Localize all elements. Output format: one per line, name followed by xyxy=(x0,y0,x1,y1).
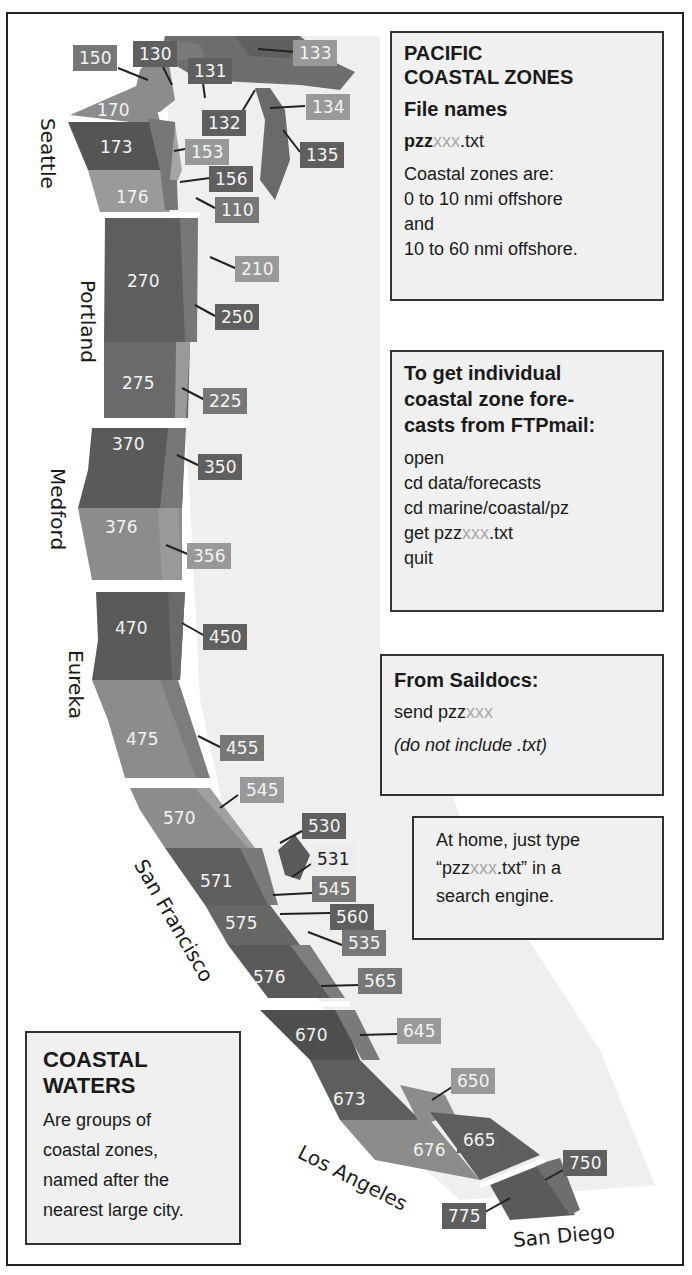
legend-line: nearest large city. xyxy=(43,1195,227,1225)
zone-tag: 665 xyxy=(457,1127,501,1153)
zone-tag: 150 xyxy=(73,45,117,71)
ftpmail-heading-1: To get individual xyxy=(404,360,650,386)
at-home-box: At home, just type “pzzxxx.txt” in a sea… xyxy=(412,816,664,940)
zone-tag: 535 xyxy=(342,930,386,956)
title-info-box: PACIFIC COASTAL ZONES File names pzzxxx.… xyxy=(390,31,664,301)
coastal-waters-box: COASTAL WATERS Are groups of coastal zon… xyxy=(25,1031,241,1245)
zone-tag: 450 xyxy=(203,624,247,650)
ftp-command-get: get pzzxxx.txt xyxy=(404,521,650,546)
zone-tag: 153 xyxy=(185,139,229,165)
zone-tag: 131 xyxy=(188,58,232,84)
zone-label: 170 xyxy=(97,102,129,119)
zone-tag: 530 xyxy=(302,813,346,839)
zone-label: 176 xyxy=(116,189,148,206)
home-line-1: At home, just type xyxy=(436,826,650,854)
zone-tag: 135 xyxy=(300,142,344,168)
info-line: 0 to 10 nmi offshore xyxy=(404,187,650,212)
zone-tag: 356 xyxy=(187,543,231,569)
file-names-heading: File names xyxy=(404,97,650,121)
zone-tag: 210 xyxy=(235,256,279,282)
title-line-1: PACIFIC xyxy=(404,41,650,65)
saildocs-box: From Saildocs: send pzzxxx (do not inclu… xyxy=(380,654,664,796)
city-seattle: Seattle xyxy=(36,118,60,189)
zone-tag: 250 xyxy=(215,304,259,330)
zone-label: 673 xyxy=(333,1091,365,1108)
zone-label: 571 xyxy=(200,873,232,890)
zone-label: 370 xyxy=(112,436,144,453)
city-eureka: Eureka xyxy=(64,650,88,719)
zone-label: 670 xyxy=(295,1027,327,1044)
legend-title-2: WATERS xyxy=(43,1073,227,1099)
info-line: 10 to 60 nmi offshore. xyxy=(404,237,650,262)
zone-label: 173 xyxy=(100,139,132,156)
zone-label: 570 xyxy=(163,810,195,827)
zone-label: 270 xyxy=(127,273,159,290)
saildocs-command: send pzzxxx xyxy=(394,700,650,725)
saildocs-note: (do not include .txt) xyxy=(394,733,650,758)
zone-label: 575 xyxy=(225,915,257,932)
zone-tag: 775 xyxy=(442,1203,486,1229)
legend-line: named after the xyxy=(43,1165,227,1195)
zone-tag: 110 xyxy=(215,197,259,223)
ftpmail-box: To get individual coastal zone fore- cas… xyxy=(390,350,664,612)
zone-tag: 132 xyxy=(202,110,246,136)
title-line-2: COASTAL ZONES xyxy=(404,65,650,89)
info-line: and xyxy=(404,212,650,237)
zone-label: 676 xyxy=(413,1142,445,1159)
zone-tag: 156 xyxy=(209,166,253,192)
zone-tag: 130 xyxy=(133,41,177,67)
zone-tag: 455 xyxy=(220,735,264,761)
zone-tag: 750 xyxy=(563,1150,607,1176)
saildocs-heading: From Saildocs: xyxy=(394,668,650,692)
city-medford: Medford xyxy=(46,468,70,550)
zone-tag: 645 xyxy=(397,1018,441,1044)
zone-tag: 545 xyxy=(312,876,356,902)
filename-pattern: pzzxxx.txt xyxy=(404,129,650,154)
zone-tag: 650 xyxy=(451,1068,495,1094)
ftp-command: cd marine/coastal/pz xyxy=(404,496,650,521)
city-portland: Portland xyxy=(76,280,100,363)
ftp-command: cd data/forecasts xyxy=(404,471,650,496)
ftpmail-heading-3: casts from FTPmail: xyxy=(404,412,650,438)
home-line-3: search engine. xyxy=(436,882,650,910)
zone-tag: 545 xyxy=(240,777,284,803)
zone-tag: 225 xyxy=(203,388,247,414)
zone-label: 576 xyxy=(253,969,285,986)
zone-tag: 560 xyxy=(330,904,374,930)
legend-line: Are groups of xyxy=(43,1105,227,1135)
zone-tag: 350 xyxy=(198,454,242,480)
zone-label: 475 xyxy=(126,731,158,748)
info-line: Coastal zones are: xyxy=(404,162,650,187)
ftp-command: open xyxy=(404,446,650,471)
zone-tag: 531 xyxy=(311,846,355,872)
zone-label: 275 xyxy=(122,375,154,392)
legend-title-1: COASTAL xyxy=(43,1047,227,1073)
ftpmail-heading-2: coastal zone fore- xyxy=(404,386,650,412)
zone-tag: 134 xyxy=(306,94,350,120)
zone-label: 376 xyxy=(105,519,137,536)
legend-line: coastal zones, xyxy=(43,1135,227,1165)
zone-tag: 565 xyxy=(358,968,402,994)
ftp-command: quit xyxy=(404,546,650,571)
zone-label: 470 xyxy=(115,620,147,637)
zone-tag: 133 xyxy=(293,40,337,66)
home-line-2: “pzzxxx.txt” in a xyxy=(436,854,650,882)
